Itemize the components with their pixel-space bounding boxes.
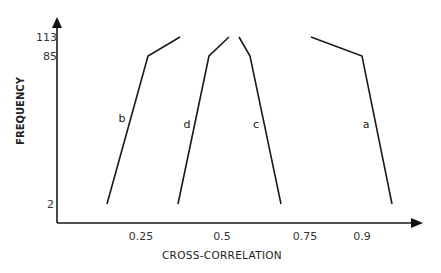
y-tick-labels: 113 85 2 — [36, 31, 57, 211]
y-axis-title: FREQUENCY — [15, 76, 26, 145]
y-axis-arrow-icon — [52, 17, 62, 28]
x-tick-0.25: 0.25 — [129, 230, 154, 243]
cross-correlation-chart: 113 85 2 0.25 0.5 0.75 0.9 CROSS-CORRELA… — [0, 0, 441, 273]
x-axis-title: CROSS-CORRELATION — [162, 249, 282, 261]
curve-label-c: c — [253, 118, 259, 131]
y-tick-2: 2 — [47, 198, 54, 211]
curve-c — [239, 37, 281, 204]
y-tick-85: 85 — [43, 50, 57, 63]
curve-label-b: b — [119, 112, 126, 125]
x-tick-0.9: 0.9 — [353, 230, 371, 243]
x-tick-0.75: 0.75 — [293, 230, 318, 243]
x-axis-arrow-icon — [411, 218, 423, 228]
y-tick-113: 113 — [36, 31, 57, 44]
curve-label-d: d — [184, 118, 191, 131]
x-tick-0.5: 0.5 — [213, 230, 231, 243]
x-tick-labels: 0.25 0.5 0.75 0.9 — [129, 230, 371, 243]
curves-group: bdca — [107, 37, 392, 204]
curve-a — [311, 37, 392, 204]
curve-label-a: a — [363, 118, 370, 131]
